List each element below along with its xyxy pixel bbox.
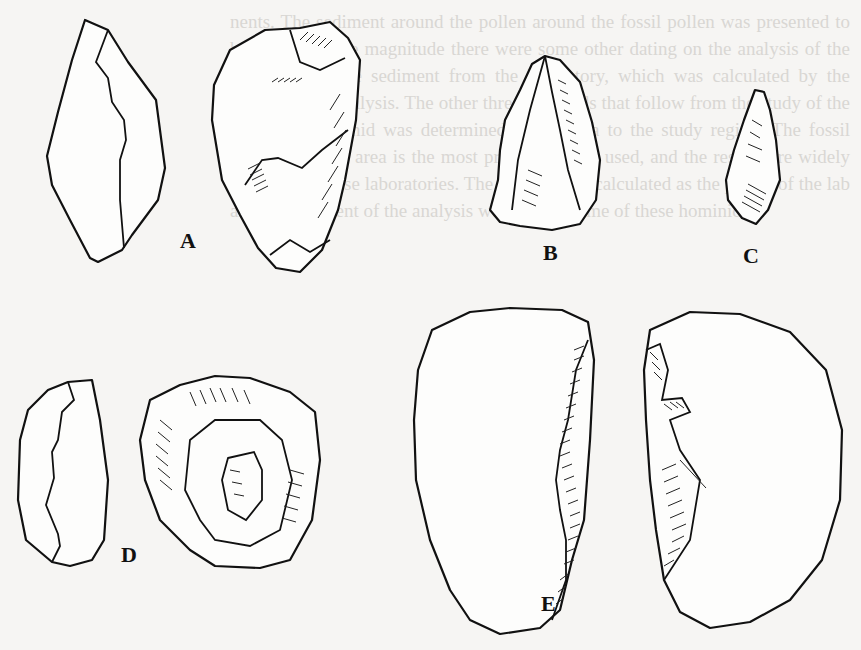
figure-page: nents. The sediment around the pollen ar… bbox=[0, 0, 861, 650]
artifact-e-front bbox=[414, 308, 594, 634]
artifact-d-outline bbox=[18, 380, 108, 566]
artifact-b bbox=[490, 56, 600, 230]
artifact-d-ring bbox=[140, 376, 320, 568]
artifact-a-outline bbox=[47, 20, 165, 262]
artifact-c bbox=[726, 90, 780, 224]
label-c: C bbox=[743, 243, 759, 269]
label-a: A bbox=[180, 228, 196, 254]
artifact-e-back bbox=[644, 312, 842, 628]
label-b: B bbox=[543, 240, 558, 266]
label-e: E bbox=[541, 591, 556, 617]
artifact-a-dorsal bbox=[212, 22, 360, 272]
label-d: D bbox=[121, 542, 137, 568]
